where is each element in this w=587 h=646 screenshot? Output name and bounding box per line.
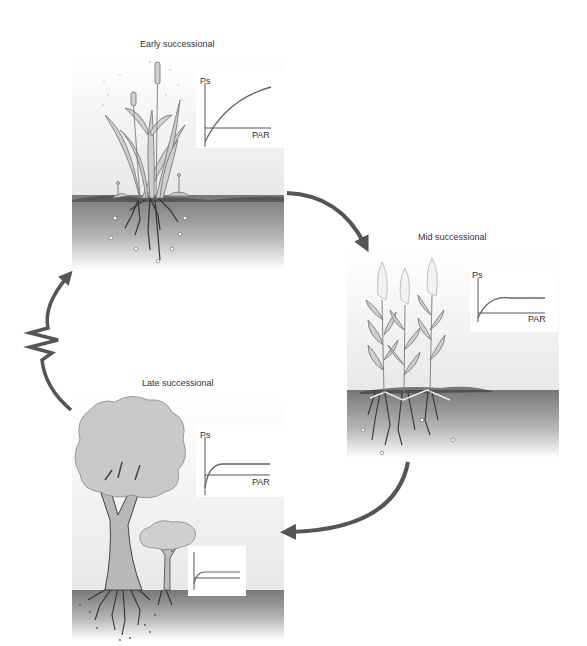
early-y-axis-label: Ps xyxy=(200,76,211,86)
mid-panel: Ps PAR xyxy=(347,250,559,458)
arrow-early-to-mid xyxy=(287,193,365,245)
mid-ps-par-graph: Ps PAR xyxy=(470,266,558,332)
late-x-axis-label: PAR xyxy=(252,477,270,487)
arrow-mid-to-late xyxy=(288,462,408,532)
early-panel: Ps PAR xyxy=(72,55,286,270)
arrow-late-to-early-disturbance xyxy=(30,276,71,410)
late-ps-par-graph: Ps PAR xyxy=(196,425,286,497)
diagram-canvas: Ps PAR xyxy=(0,0,587,646)
succession-diagram: Early successional Mid successional Late… xyxy=(0,0,587,646)
late-inset-graph xyxy=(188,546,246,596)
late-y-axis-label: Ps xyxy=(200,430,211,440)
late-panel: Ps PAR xyxy=(72,395,286,641)
mid-x-axis-label: PAR xyxy=(528,314,546,324)
mid-y-axis-label: Ps xyxy=(472,270,483,280)
early-ps-par-graph: Ps PAR xyxy=(196,72,286,148)
early-x-axis-label: PAR xyxy=(252,130,270,140)
